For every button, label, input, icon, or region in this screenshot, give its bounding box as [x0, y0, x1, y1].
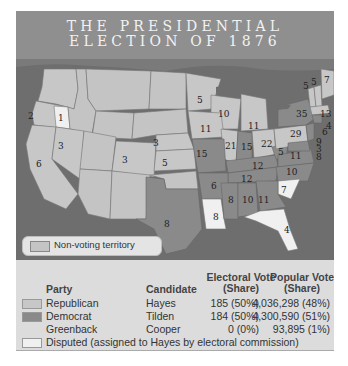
label-VA: 11 [290, 151, 301, 161]
election-map: 2 1 6 3 3 3 5 5 10 11 11 21 15 22 15 12 … [16, 59, 334, 260]
label-PA: 29 [290, 129, 302, 139]
label-NV: 3 [58, 141, 64, 151]
label-MI: 11 [248, 121, 259, 131]
label-CT: 6 [322, 127, 328, 137]
label-CO: 3 [122, 155, 128, 165]
label-CA: 6 [36, 159, 42, 169]
label-MS: 8 [228, 195, 234, 205]
candidate-name: Tilden [146, 310, 174, 322]
state-KS [154, 149, 196, 171]
label-KS: 5 [162, 158, 168, 168]
header-candidate: Candidate [146, 284, 197, 295]
label-NH: 5 [311, 77, 317, 87]
label-IL: 21 [225, 141, 236, 151]
label-LA: 8 [213, 212, 219, 222]
label-GA: 11 [258, 195, 269, 205]
label-NE: 3 [153, 138, 159, 148]
label-IN: 15 [241, 142, 253, 152]
label-VT: 5 [303, 81, 309, 91]
label-ME: 7 [324, 75, 330, 85]
candidate-name: Cooper [146, 323, 180, 335]
title-line-2: ELECTION OF 1876 [16, 34, 334, 49]
label-MD: 8 [316, 152, 322, 162]
territory-MT [86, 69, 151, 111]
electoral-vote: 0 (0%) [228, 323, 259, 335]
label-TN: 12 [241, 174, 252, 184]
label-MN: 5 [197, 95, 203, 105]
state-NE [156, 133, 194, 151]
label-IA: 11 [200, 124, 211, 134]
label-MO: 15 [196, 149, 208, 159]
territory-AZ [78, 169, 112, 219]
label-OR-disputed: 1 [58, 113, 64, 123]
disputed-swatch [22, 338, 42, 348]
map-title: THE PRESIDENTIAL ELECTION OF 1876 [16, 11, 334, 59]
democrat-swatch [22, 312, 42, 322]
disputed-row: Disputed (assigned to Hayes by electoral… [16, 336, 334, 349]
popular-vote: 4,036,298 (48%) [252, 297, 330, 309]
label-AL: 10 [242, 195, 254, 205]
territory-UT [80, 131, 116, 171]
label-SC: 7 [281, 185, 287, 195]
results-table: Party Candidate Electoral Vote (Share) P… [16, 260, 334, 351]
label-NY: 35 [296, 109, 308, 119]
party-name: Democrat [46, 310, 92, 322]
table-row: Greenback Cooper 0 (0%) 93,895 (1%) [16, 323, 334, 336]
state-FL [244, 209, 298, 251]
label-KY: 12 [252, 161, 263, 171]
map-legend: Non-voting territory [22, 236, 162, 256]
disputed-note: Disputed (assigned to Hayes by electoral… [46, 336, 299, 348]
header-popular-vote: Popular Vote (Share) [268, 272, 336, 294]
candidate-name: Hayes [146, 297, 176, 309]
us-map-graphic: 2 1 6 3 3 3 5 5 10 11 11 21 15 22 15 12 … [16, 59, 334, 260]
label-MA: 13 [320, 109, 332, 119]
party-name: Greenback [46, 323, 97, 335]
title-line-1: THE PRESIDENTIAL [16, 19, 334, 34]
territory-NM [110, 171, 150, 219]
popular-vote: 93,895 (1%) [273, 323, 330, 335]
label-FL: 4 [284, 225, 290, 235]
republican-swatch [22, 299, 42, 309]
state-MD [288, 141, 310, 151]
label-AR: 6 [211, 181, 217, 191]
table-row: Republican Hayes 185 (50%) 4,036,298 (48… [16, 297, 334, 310]
label-WI: 10 [218, 109, 230, 119]
territory-DK [149, 71, 186, 109]
legend-label: Non-voting territory [54, 239, 135, 250]
party-name: Republican [46, 297, 99, 309]
label-WV: 5 [278, 147, 284, 157]
popular-vote: 4,300,590 (51%) [252, 310, 330, 322]
label-OR: 2 [28, 111, 34, 121]
non-voting-swatch [30, 241, 50, 252]
label-NC: 10 [286, 167, 298, 177]
header-popular-line2: (Share) [268, 283, 336, 294]
label-OH: 22 [261, 139, 272, 149]
table-row: Democrat Tilden 184 (50%) 4,300,590 (51%… [16, 310, 334, 323]
label-TX: 8 [164, 219, 170, 229]
header-party: Party [46, 284, 72, 295]
